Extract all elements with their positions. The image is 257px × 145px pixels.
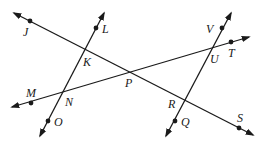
label-p: P	[124, 76, 133, 90]
point-q	[173, 119, 178, 124]
label-n: N	[64, 95, 74, 109]
point-m	[29, 101, 34, 106]
label-u: U	[210, 52, 220, 66]
label-r: R	[167, 97, 176, 111]
label-s: S	[237, 111, 243, 125]
geometry-diagram: J L K V T U P M N R O Q S	[0, 0, 257, 145]
point-j	[28, 19, 33, 24]
label-k: K	[82, 55, 92, 69]
point-v	[220, 26, 225, 31]
point-o	[46, 119, 51, 124]
label-j: J	[23, 25, 29, 39]
label-o: O	[54, 115, 63, 129]
label-t: T	[228, 46, 236, 60]
label-v: V	[206, 22, 215, 36]
label-l: L	[101, 22, 109, 36]
label-q: Q	[181, 115, 190, 129]
point-l	[94, 26, 99, 31]
label-m: M	[25, 86, 37, 100]
point-s	[237, 126, 242, 131]
line-vq	[166, 13, 231, 136]
point-t	[229, 40, 234, 45]
